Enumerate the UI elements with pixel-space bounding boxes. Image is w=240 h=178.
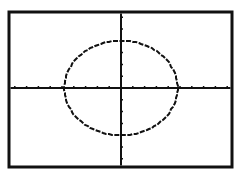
axes: [11, 14, 231, 166]
graph-plot: [0, 0, 240, 178]
calculator-graph-screen: Ellipse centered at origin: [0, 0, 240, 178]
